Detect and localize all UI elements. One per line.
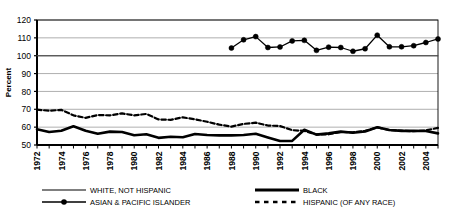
legend-item[interactable]: HISPANIC (OF ANY RACE)	[255, 198, 396, 207]
x-tick-label: 1976	[81, 151, 91, 170]
series-marker	[314, 48, 319, 53]
legend-marker-icon	[61, 199, 67, 205]
y-tick-label: 70	[22, 104, 32, 114]
y-tick-label: 50	[22, 140, 32, 150]
series-marker	[326, 45, 331, 50]
y-tick-label: 90	[22, 69, 32, 79]
legend-label: BLACK	[303, 186, 328, 195]
y-tick-label: 120	[17, 15, 31, 25]
series-marker	[436, 36, 441, 41]
data-series	[37, 33, 441, 141]
x-tick-label: 1994	[300, 151, 310, 170]
y-axis-title: Percent	[4, 67, 13, 97]
legend-item[interactable]: WHITE, NOT HISPANIC	[42, 186, 172, 195]
series-marker	[423, 40, 428, 45]
legend-item[interactable]: BLACK	[255, 186, 328, 195]
series-marker	[363, 46, 368, 51]
series-marker	[265, 45, 270, 50]
series-marker	[375, 33, 380, 38]
series-marker	[350, 49, 355, 54]
x-tick-label: 1982	[154, 151, 164, 170]
y-axis-ticks: 5060708090100110120	[17, 15, 37, 150]
series-marker	[278, 44, 283, 49]
series-marker	[290, 38, 295, 43]
legend-label: ASIAN & PACIFIC ISLANDER	[90, 198, 191, 207]
y-tick-label: 80	[22, 87, 32, 97]
x-tick-label: 1998	[348, 151, 358, 170]
series-marker	[387, 44, 392, 49]
x-axis-labels: 1972197419761978198019821984198619881990…	[32, 151, 431, 170]
x-tick-label: 2002	[397, 151, 407, 170]
series-line-3	[37, 110, 438, 135]
x-tick-label: 1978	[105, 151, 115, 170]
series-marker	[338, 45, 343, 50]
chart-legend: WHITE, NOT HISPANICBLACKASIAN & PACIFIC …	[42, 186, 396, 207]
x-tick-label: 1972	[32, 151, 42, 170]
x-tick-label: 1986	[202, 151, 212, 170]
y-tick-label: 60	[22, 122, 32, 132]
x-tick-label: 1996	[324, 151, 334, 170]
series-marker	[399, 44, 404, 49]
x-tick-label: 2004	[421, 151, 431, 170]
series-marker	[229, 46, 234, 51]
x-tick-label: 1980	[129, 151, 139, 170]
legend-item[interactable]: ASIAN & PACIFIC ISLANDER	[42, 198, 191, 207]
x-tick-label: 2000	[372, 151, 382, 170]
x-tick-label: 1988	[227, 151, 237, 170]
x-tick-label: 1974	[57, 151, 67, 170]
series-marker	[411, 43, 416, 48]
y-tick-label: 110	[17, 33, 31, 43]
legend-label: HISPANIC (OF ANY RACE)	[303, 198, 396, 207]
series-marker	[302, 38, 307, 43]
y-axis-title-text: Percent	[4, 67, 13, 97]
line-chart: 5060708090100110120 Percent 197219741976…	[0, 0, 453, 216]
x-tick-label: 1992	[275, 151, 285, 170]
legend-label: WHITE, NOT HISPANIC	[90, 186, 172, 195]
y-tick-label: 100	[17, 51, 31, 61]
x-tick-label: 1984	[178, 151, 188, 170]
series-marker	[253, 34, 258, 39]
series-marker	[241, 37, 246, 42]
x-tick-label: 1990	[251, 151, 261, 170]
chart-container: 5060708090100110120 Percent 197219741976…	[0, 0, 453, 216]
